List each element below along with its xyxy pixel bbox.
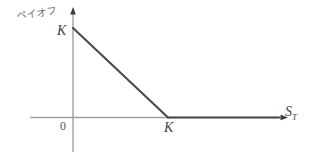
y-axis-strike-label: K	[57, 24, 66, 38]
x-axis-label-main: S	[285, 104, 292, 119]
payoff-sloped-segment	[73, 28, 168, 118]
x-axis-label: ST	[285, 105, 297, 122]
payoff-figure: K 0 K ST ペイオフ	[0, 0, 312, 157]
x-axis-label-subscript: T	[292, 112, 297, 122]
x-axis-strike-label: K	[164, 121, 173, 135]
origin-label: 0	[60, 120, 66, 132]
payoff-plot-svg	[0, 0, 312, 157]
y-axis-arrowhead	[70, 7, 76, 15]
